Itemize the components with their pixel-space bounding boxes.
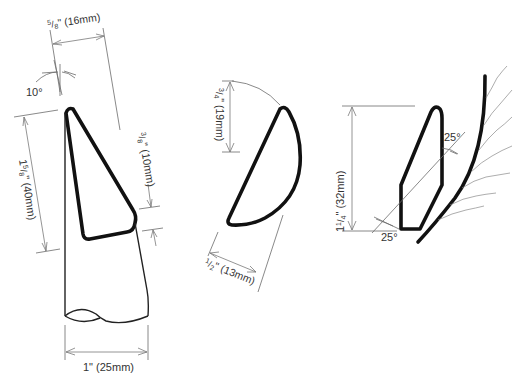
shaft-width-label: 1" (25mm) [83,361,134,373]
extension-line [103,28,120,130]
extension-line [14,110,58,117]
bevel-length-label: 15/8" (40mm) [16,158,38,221]
height-label: 3/4" (19mm) [213,88,226,141]
lower-angle-label: 25° [381,231,398,243]
arrowheads [66,348,147,355]
heel-label: 3/8" (10mm) [135,131,157,188]
workpiece-surface [418,76,485,242]
shaft-break [65,316,100,322]
upper-angle-label: 25° [444,131,461,143]
half-round-profile: 3/4" (19mm) 1/2" (13mm) [203,81,300,292]
arrowheads [53,34,104,45]
dimension-line-heel [148,184,151,207]
cutter-outline [401,107,442,229]
wood-grain [438,66,512,220]
extension-line [139,206,160,209]
angle-line [54,60,62,95]
length-label: 11/4" (32mm) [334,171,347,232]
arc-guide [232,81,280,105]
extension-line [258,215,283,292]
tip-angle-label: 10° [26,86,43,98]
tool-profile-diagram: 5/8" (16mm) 10° 15/8" (40mm) 3/8" (10mm) [0,0,515,381]
skew-chisel-profile: 5/8" (16mm) 10° 15/8" (40mm) 3/8" (10mm) [14,11,163,373]
arrowhead [147,199,152,207]
extension-line [36,249,60,253]
tip-width-label: 5/8" (16mm) [47,11,101,31]
shaft-right-edge [135,223,148,316]
width-label: 1/2" (13mm) [203,256,257,288]
cutting-profile: 11/4" (32mm) 25° 25° [334,66,512,243]
angle-arc [36,72,58,82]
extension-line [50,30,60,92]
bevel-outline [66,109,136,240]
half-round-outline [228,108,300,226]
